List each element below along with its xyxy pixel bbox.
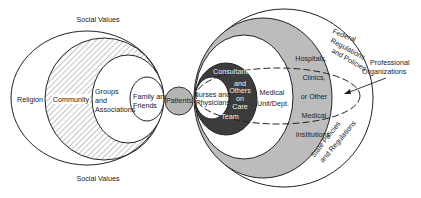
professional-organizations-label: Professional Organizations — [362, 58, 412, 76]
community-label: Community — [53, 95, 90, 104]
religion-label: Religion — [17, 95, 43, 104]
right-cluster: Consultants and Others on Care Team Nurs… — [194, 9, 412, 187]
patients-label: Patients — [166, 96, 192, 105]
nurses-physicians-label: Nurses and Physicians — [194, 90, 233, 107]
nested-circles-diagram: Social Values Social Values Religion Com… — [0, 0, 421, 198]
diagram-canvas: Social Values Social Values Religion Com… — [0, 0, 421, 198]
left-cluster: Social Values Social Values Religion Com… — [11, 15, 170, 183]
social-values-top-label: Social Values — [76, 15, 119, 24]
social-values-bottom-label: Social Values — [76, 174, 119, 183]
